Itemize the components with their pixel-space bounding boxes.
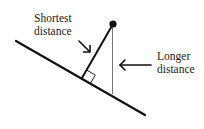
diagram-canvas: Shortest distance Longer distance [0,0,204,129]
shortest-arrow-icon [79,41,90,52]
longer-label-line2: distance [157,63,195,76]
longer-arrow-icon [120,60,151,70]
shortest-distance-label: Shortest distance [34,12,72,38]
point [109,20,116,27]
shortest-label-line1: Shortest [34,12,72,25]
longer-label-line1: Longer [157,50,195,63]
shortest-label-line2: distance [34,25,72,38]
sloped-line [16,41,145,115]
longer-distance-label: Longer distance [157,50,195,76]
